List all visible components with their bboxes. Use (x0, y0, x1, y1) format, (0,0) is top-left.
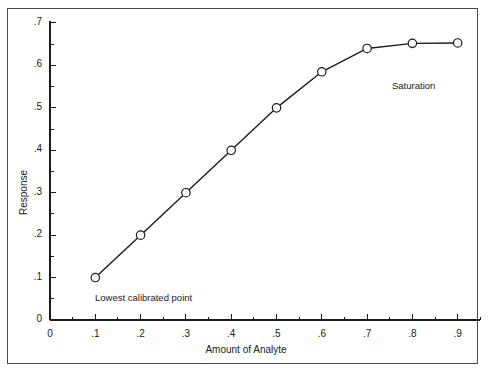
x-tick-label: .7 (352, 328, 382, 339)
chart-page: Response Amount of Analyte Lowest calibr… (0, 0, 492, 372)
y-tick-label: .7 (16, 16, 42, 27)
y-tick-label: .6 (16, 58, 42, 69)
data-point-marker (454, 39, 462, 47)
x-tick-label: 0 (35, 328, 65, 339)
data-point-marker (227, 146, 235, 154)
x-axis-title: Amount of Analyte (0, 344, 492, 355)
y-tick-label: .1 (16, 271, 42, 282)
data-point-marker (272, 104, 280, 112)
data-point-marker (91, 273, 99, 281)
data-point-marker (408, 39, 416, 47)
y-tick-label: .2 (16, 228, 42, 239)
axes-group (50, 21, 480, 320)
calibration-curve-chart (0, 0, 492, 372)
annotation-lowest-calibrated-point: Lowest calibrated point (95, 292, 192, 303)
data-point-marker (363, 44, 371, 52)
x-tick-label: .5 (262, 328, 292, 339)
data-series-group (91, 39, 462, 282)
y-tick-label: .4 (16, 143, 42, 154)
data-point-marker (318, 68, 326, 76)
x-tick-label: .4 (216, 328, 246, 339)
data-point-marker (182, 189, 190, 197)
x-tick-label: .3 (171, 328, 201, 339)
x-tick-label: .6 (307, 328, 337, 339)
annotation-saturation: Saturation (392, 80, 435, 91)
data-point-marker (136, 231, 144, 239)
x-tick-label: .2 (126, 328, 156, 339)
x-tick-label: .9 (443, 328, 473, 339)
x-tick-label: .8 (397, 328, 427, 339)
series-line (95, 43, 457, 278)
y-tick-label: .5 (16, 101, 42, 112)
y-tick-label: .3 (16, 186, 42, 197)
y-tick-label: 0 (16, 313, 42, 324)
x-tick-label: .1 (80, 328, 110, 339)
